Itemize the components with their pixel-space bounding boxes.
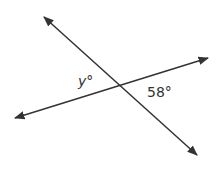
angle-diagram: y° 58° xyxy=(0,0,220,173)
line-b xyxy=(15,58,208,118)
known-angle-label: 58° xyxy=(147,84,172,100)
line-a xyxy=(44,17,197,155)
y-angle-label: y° xyxy=(77,73,93,89)
